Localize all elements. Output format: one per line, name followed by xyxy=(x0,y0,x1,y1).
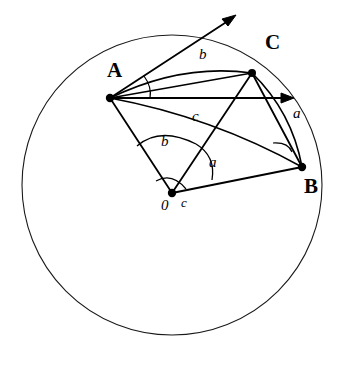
sphere-outline xyxy=(22,35,322,335)
spherical-triangle-figure: A C B 0 b c a b a c xyxy=(0,0,343,365)
vertex-dot-B xyxy=(298,163,306,171)
vertex-label-B: B xyxy=(304,176,318,197)
vertex-label-A: A xyxy=(107,60,122,81)
central-angle-label-c: c xyxy=(181,196,187,209)
diagram-canvas xyxy=(0,0,343,365)
central-angle-label-b: b xyxy=(161,134,169,149)
angle-arc-at-A xyxy=(144,76,150,98)
arc-label-b: b xyxy=(199,47,207,62)
arc-label-a: a xyxy=(293,106,301,121)
great-arc-AB xyxy=(110,98,302,167)
vertex-dot-O xyxy=(168,189,176,197)
vertex-label-C: C xyxy=(265,32,280,53)
vertex-dot-C xyxy=(248,69,256,77)
vertex-label-O: 0 xyxy=(161,198,169,213)
vertex-dot-A xyxy=(106,94,114,102)
central-angle-label-a: a xyxy=(209,155,217,170)
arc-label-c: c xyxy=(192,109,199,124)
chord-AC xyxy=(110,73,252,98)
radius-OB xyxy=(172,167,302,193)
tangent-ray-AC xyxy=(110,19,231,98)
